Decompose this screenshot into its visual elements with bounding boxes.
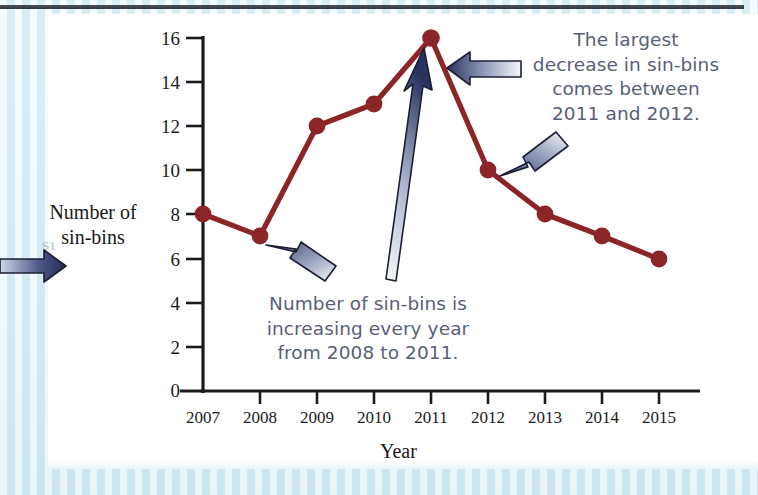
- x-tick-label-2007: 2007: [173, 408, 233, 428]
- y-tick-label-16: 16: [146, 28, 180, 50]
- x-tick-label-2009: 2009: [287, 408, 347, 428]
- y-tick-label-6: 6: [146, 249, 180, 271]
- x-tick-label-2014: 2014: [572, 408, 632, 428]
- x-tick-label-2011: 2011: [401, 408, 461, 428]
- y-tick-label-12: 12: [146, 116, 180, 138]
- annotation-arrow-2008: [266, 242, 336, 281]
- annotation-line: The largest: [498, 28, 754, 53]
- annotation-line: comes between: [498, 77, 754, 102]
- y-tick-label-4: 4: [146, 293, 180, 315]
- annotation-line: 2011 and 2012.: [498, 102, 754, 127]
- page-edge-arrow: [0, 250, 66, 282]
- y-tick-label-10: 10: [146, 160, 180, 182]
- annotation-largest-decrease: The largest decrease in sin-bins comes b…: [498, 28, 754, 126]
- x-tick-label-2010: 2010: [344, 408, 404, 428]
- annotation-line: decrease in sin-bins: [498, 53, 754, 78]
- y-tick-label-14: 14: [146, 72, 180, 94]
- y-tick-label-0: 0: [146, 380, 180, 402]
- x-tick-label-2013: 2013: [515, 408, 575, 428]
- annotation-line: Number of sin-bins is: [222, 292, 514, 317]
- y-axis-title-line2: sin-bins: [18, 225, 168, 250]
- x-tick-label-2012: 2012: [458, 408, 518, 428]
- annotation-line: from 2008 to 2011.: [222, 341, 514, 366]
- annotation-line: increasing every year: [222, 317, 514, 342]
- x-axis-title: Year: [380, 440, 417, 463]
- x-tick-label-2015: 2015: [629, 408, 689, 428]
- annotation-arrow-2012: [500, 132, 568, 176]
- y-axis-title: Number of sin-bins: [18, 200, 168, 250]
- y-tick-marks: [186, 38, 203, 347]
- x-tick-label-2008: 2008: [230, 408, 290, 428]
- y-axis-title-line1: Number of: [18, 200, 168, 225]
- y-tick-label-2: 2: [146, 337, 180, 359]
- x-tick-marks: [260, 391, 659, 404]
- annotation-increasing-every-year: Number of sin-bins is increasing every y…: [222, 292, 514, 366]
